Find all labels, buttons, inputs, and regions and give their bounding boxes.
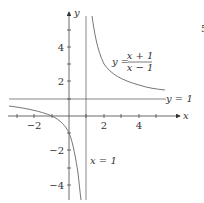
svg-text:x − 1: x − 1 [127,62,154,73]
vertical-asymptote-label: x = 1 [90,155,117,166]
svg-text:x + 1: x + 1 [127,50,154,61]
y-tick-label: 2 [58,76,64,87]
curve-left-branch [9,106,81,200]
x-tick-label: −2 [27,120,42,131]
y-tick-label: −4 [49,180,64,191]
x-tick-label: 4 [136,120,142,131]
x-axis-label: x [183,110,189,121]
y-axis-label: y [73,7,80,18]
page-number-fragment: 5 [201,23,204,34]
x-tick-label: 2 [101,120,107,131]
y-tick-label: 4 [58,42,64,53]
rational-function-graph: −2 2 4 4 2 −2 −4 x y y = 1 x = 1 y = x +… [0,0,204,203]
function-label: y = x + 1 x − 1 [111,50,153,73]
y-tick-label: −2 [49,145,64,156]
horizontal-asymptote-label: y = 1 [165,93,193,104]
